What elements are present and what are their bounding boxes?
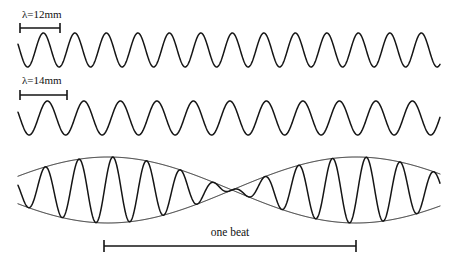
- figure-canvas: λ=12mm λ=14mm one beat: [0, 0, 464, 268]
- wave-1-path: [18, 33, 440, 67]
- beats-wave-figure: λ=12mm λ=14mm one beat: [0, 0, 464, 268]
- wavelength-1-label: λ=12mm: [22, 8, 62, 20]
- beat-wave-path: [18, 157, 440, 223]
- one-beat-measure-bar: [104, 240, 356, 252]
- wavelength-1-measure-bar: [20, 23, 60, 33]
- wavelength-2-measure-bar: [20, 90, 67, 100]
- wavelength-2-label: λ=14mm: [22, 74, 62, 86]
- wave-2-path: [18, 101, 440, 135]
- one-beat-label: one beat: [211, 226, 250, 238]
- wave-1-group: [18, 33, 440, 67]
- beat-wave-group: [18, 157, 440, 223]
- lower-envelope-path: [18, 190, 440, 223]
- wave-2-group: [18, 101, 440, 135]
